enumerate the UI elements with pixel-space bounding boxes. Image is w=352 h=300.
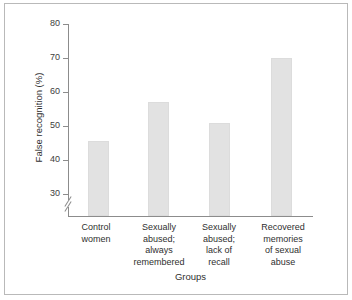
bar-recovered-memories-of-sexual-abuse[interactable] [271,58,292,216]
bar-sexually-abused-lack-of-recall[interactable] [209,123,230,216]
y-tick-mark-40 [63,160,69,161]
x-category-label-3-line-0: Recovered [252,222,314,234]
bar-control-women[interactable] [88,141,109,216]
axis-break-icon [60,196,77,211]
x-category-label-0: Control women [68,222,124,245]
x-category-label-3-line-2: of sexual [252,245,314,257]
x-category-label-0-line-1: women [68,234,124,246]
x-category-label-3-line-1: memories [252,234,314,246]
y-tick-mark-30 [63,194,69,195]
x-category-label-0-line-0: Control [68,222,124,234]
x-category-label-1: Sexually abused; always remembered [126,222,192,268]
x-category-label-1-line-1: abused; [126,234,192,246]
x-axis-title: Groups [68,271,313,282]
x-category-label-1-line-3: remembered [126,257,192,269]
x-category-label-2-line-0: Sexually [191,222,247,234]
x-category-label-1-line-0: Sexually [126,222,192,234]
y-tick-mark-80 [63,24,69,25]
y-tick-mark-70 [63,58,69,59]
y-tick-label-80: 80 [34,19,60,28]
y-axis-line [68,24,69,200]
x-axis-line [68,216,313,217]
bar-sexually-abused-always-remembered[interactable] [148,102,169,216]
x-category-label-2-line-2: lack of [191,245,247,257]
x-category-label-2-line-3: recall [191,257,247,269]
x-category-label-2-line-1: abused; [191,234,247,246]
y-tick-mark-60 [63,92,69,93]
y-tick-mark-50 [63,126,69,127]
x-category-label-3-line-3: abuse [252,257,314,269]
x-category-label-2: Sexually abused; lack of recall [191,222,247,268]
plot-area: 80 70 60 50 40 30 Control women Sexually… [0,0,352,300]
y-axis-title: False recognition (%) [33,58,44,178]
x-category-label-1-line-2: always [126,245,192,257]
figure-container: 80 70 60 50 40 30 Control women Sexually… [0,0,352,300]
x-category-label-3: Recovered memories of sexual abuse [252,222,314,268]
y-tick-label-30: 30 [34,189,60,198]
